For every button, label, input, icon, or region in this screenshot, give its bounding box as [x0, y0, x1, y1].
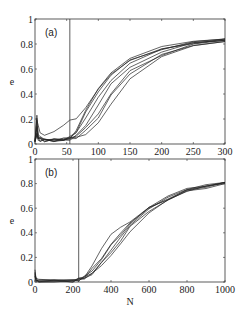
series-line [35, 42, 225, 142]
y-axis-label: e [10, 76, 15, 87]
series-line [35, 39, 225, 142]
panel-b: 00.20.40.60.8102004006008001000eN(b) [10, 154, 235, 308]
y-tick-label: 1 [28, 14, 33, 25]
y-axis-label: e [10, 215, 15, 226]
x-tick-label: 250 [186, 146, 201, 157]
x-tick-label: 200 [154, 146, 169, 157]
x-axis-label: N [126, 296, 133, 307]
y-tick-label: 1 [28, 154, 33, 165]
x-tick-label: 800 [180, 284, 195, 295]
x-tick-label: 1000 [215, 284, 235, 295]
panel-label: (b) [45, 167, 57, 178]
series-line [35, 182, 225, 280]
x-tick-label: 150 [123, 146, 138, 157]
x-tick-label: 600 [142, 284, 157, 295]
series-line [35, 40, 225, 141]
y-tick-label: 0.4 [21, 227, 34, 238]
x-tick-label: 400 [104, 284, 119, 295]
series-line [35, 40, 225, 141]
panel-a: 00.20.40.60.81050100150200250300e(a) [10, 14, 233, 158]
y-tick-label: 0.2 [21, 114, 34, 125]
y-tick-label: 0.6 [21, 64, 34, 75]
x-tick-label: 100 [91, 146, 106, 157]
x-tick-label: 0 [33, 146, 38, 157]
x-tick-label: 300 [218, 146, 233, 157]
x-tick-label: 0 [33, 284, 38, 295]
x-tick-label: 50 [62, 146, 72, 157]
series-line [35, 40, 225, 141]
series-line [35, 184, 225, 282]
series-line [35, 184, 225, 282]
plot-frame [35, 159, 225, 282]
y-tick-label: 0.4 [21, 89, 34, 100]
y-tick-label: 0.8 [21, 178, 34, 189]
panel-label: (a) [45, 27, 57, 38]
series-line [35, 39, 225, 142]
series-line [35, 39, 225, 142]
y-tick-label: 0.2 [21, 252, 34, 263]
y-tick-label: 0.8 [21, 39, 34, 50]
chart: 00.20.40.60.81050100150200250300e(a) 00.… [0, 0, 249, 320]
y-tick-label: 0.6 [21, 203, 34, 214]
series-line [35, 42, 225, 142]
x-tick-label: 200 [66, 284, 81, 295]
